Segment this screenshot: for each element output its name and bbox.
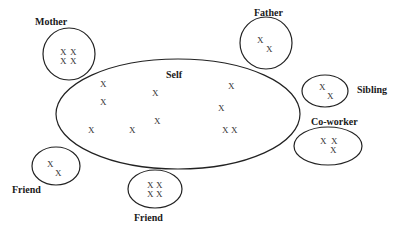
mother-label: Mother: [35, 16, 68, 27]
self-mark: X: [154, 116, 161, 126]
self-mark: X: [231, 125, 238, 135]
self-label: Self: [166, 69, 183, 80]
friend-bottom-mark: X: [147, 189, 154, 199]
group-father: Father X X: [240, 7, 292, 69]
father-mark: X: [266, 44, 273, 54]
self-node: Self X X X X X X X X X X: [56, 59, 300, 169]
friend-left-label: Friend: [12, 184, 41, 195]
sibling-label: Sibling: [357, 84, 387, 95]
self-mark: X: [152, 88, 159, 98]
mother-mark: X: [60, 56, 67, 66]
friend-bottom-ellipse: [128, 170, 182, 208]
mother-circle: [43, 28, 95, 80]
co-worker-mark: X: [320, 136, 327, 146]
self-mark: X: [129, 125, 136, 135]
self-mark: X: [88, 125, 95, 135]
group-mother: Mother X X X X: [35, 16, 95, 80]
self-mark: X: [222, 125, 229, 135]
self-mark: X: [228, 81, 235, 91]
co-worker-label: Co-worker: [311, 116, 358, 127]
group-friend-bottom: Friend X X X X: [128, 170, 182, 223]
co-worker-mark: X: [330, 145, 337, 155]
sibling-mark: X: [319, 82, 326, 92]
father-label: Father: [254, 7, 283, 18]
father-circle: [240, 17, 292, 69]
sibling-mark: X: [327, 91, 334, 101]
ego-network-diagram: Self X X X X X X X X X X Mother X X X X …: [0, 0, 400, 230]
self-mark: X: [218, 103, 225, 113]
father-mark: X: [257, 35, 264, 45]
friend-bottom-label: Friend: [134, 212, 163, 223]
mother-mark: X: [70, 56, 77, 66]
self-mark: X: [100, 97, 107, 107]
co-worker-ellipse: [294, 127, 362, 165]
friend-left-mark: X: [55, 168, 62, 178]
group-sibling: Sibling X X: [302, 75, 387, 107]
group-co-worker: Co-worker X X X: [294, 116, 362, 165]
self-mark: X: [100, 79, 107, 89]
friend-left-ellipse: [32, 147, 80, 185]
friend-left-mark: X: [47, 159, 54, 169]
group-friend-left: Friend X X: [12, 147, 80, 195]
friend-bottom-mark: X: [156, 189, 163, 199]
